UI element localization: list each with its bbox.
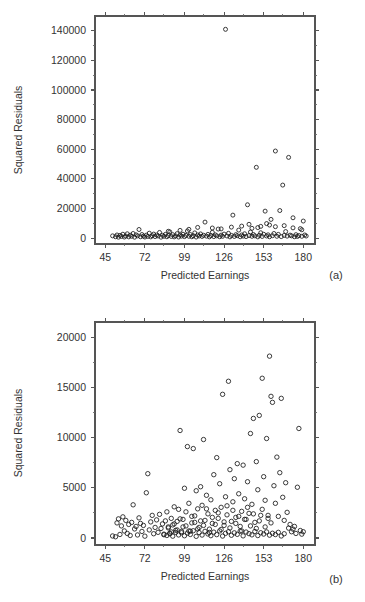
data-point [279, 396, 283, 400]
data-point [283, 481, 287, 485]
data-point [198, 519, 202, 523]
data-point [266, 513, 270, 517]
data-point [282, 518, 286, 522]
data-point [229, 225, 233, 229]
x-tick-label: 72 [139, 251, 151, 263]
data-point [210, 226, 214, 230]
x-tick-label: 153 [255, 552, 273, 564]
y-tick-label: 80000 [57, 113, 86, 125]
data-point [224, 27, 228, 31]
data-point [278, 209, 282, 213]
y-tick-label: 20000 [57, 331, 86, 343]
data-point [223, 495, 227, 499]
data-point [253, 520, 257, 524]
data-point [184, 524, 188, 528]
data-point [257, 519, 261, 523]
data-point [159, 526, 163, 530]
y-tick-label: 40000 [57, 172, 86, 184]
data-point [175, 519, 179, 523]
data-point [269, 394, 273, 398]
x-axis-title: Predicted Earnings [161, 269, 250, 281]
data-point [234, 515, 238, 519]
data-point [191, 529, 195, 533]
y-tick-label: 15000 [57, 381, 86, 393]
data-point [263, 525, 267, 529]
data-point [240, 224, 244, 228]
data-point [301, 219, 305, 223]
data-point [229, 519, 233, 523]
data-point [206, 512, 210, 516]
data-point [216, 516, 220, 520]
data-point [119, 524, 123, 528]
data-point [235, 461, 239, 465]
data-point [110, 534, 114, 538]
data-point [194, 489, 198, 493]
data-point [234, 521, 238, 525]
data-point [198, 485, 202, 489]
data-point [275, 455, 279, 459]
data-point [226, 379, 230, 383]
data-point [237, 228, 241, 232]
data-point [135, 533, 139, 537]
data-point [194, 534, 198, 538]
data-point [291, 216, 295, 220]
data-point [281, 183, 285, 187]
data-point [284, 230, 288, 234]
data-point [163, 519, 167, 523]
data-point [204, 493, 208, 497]
data-point [153, 525, 157, 529]
data-point [137, 227, 141, 231]
data-point [270, 400, 274, 404]
data-point [140, 529, 144, 533]
data-point [225, 513, 229, 517]
data-point-group [110, 354, 305, 539]
data-point [193, 514, 197, 518]
data-point [291, 226, 295, 230]
data-point [195, 507, 199, 511]
data-point [124, 518, 128, 522]
x-tick-label: 126 [215, 552, 233, 564]
panel-tag: (b) [329, 573, 342, 585]
data-point [219, 227, 223, 231]
data-point [228, 467, 232, 471]
data-point [213, 522, 217, 526]
x-tick-label: 153 [255, 251, 273, 263]
data-point [203, 518, 207, 522]
data-point [267, 354, 271, 358]
data-point [251, 512, 255, 516]
data-point [241, 534, 245, 538]
data-point [196, 225, 200, 229]
y-tick-label: 5000 [63, 481, 87, 493]
data-point [238, 524, 242, 528]
data-point-group [111, 27, 309, 239]
data-point [185, 444, 189, 448]
data-point [215, 455, 219, 459]
y-tick-label: 20000 [57, 202, 86, 214]
data-point [295, 485, 299, 489]
panel-tag: (a) [329, 269, 342, 281]
data-point [178, 228, 182, 232]
y-tick-label: 100000 [51, 84, 86, 96]
data-point [171, 534, 175, 538]
data-point [276, 514, 280, 518]
data-point [263, 498, 267, 502]
data-point [246, 203, 250, 207]
data-point [254, 459, 258, 463]
data-point [250, 226, 254, 230]
data-point [272, 484, 276, 488]
data-point [282, 224, 286, 228]
data-point [269, 217, 273, 221]
data-point [263, 209, 267, 213]
data-point [144, 491, 148, 495]
data-point [297, 426, 301, 430]
data-point [210, 515, 214, 519]
data-point [245, 480, 249, 484]
data-point [250, 502, 254, 506]
data-point [219, 505, 223, 509]
x-tick-label: 180 [295, 552, 313, 564]
data-point [231, 508, 235, 512]
data-point [247, 511, 251, 515]
scatter-plot-a: 0200004000060000800001000001200001400004… [0, 0, 365, 300]
data-point [169, 516, 173, 520]
x-tick-label: 99 [179, 552, 191, 564]
